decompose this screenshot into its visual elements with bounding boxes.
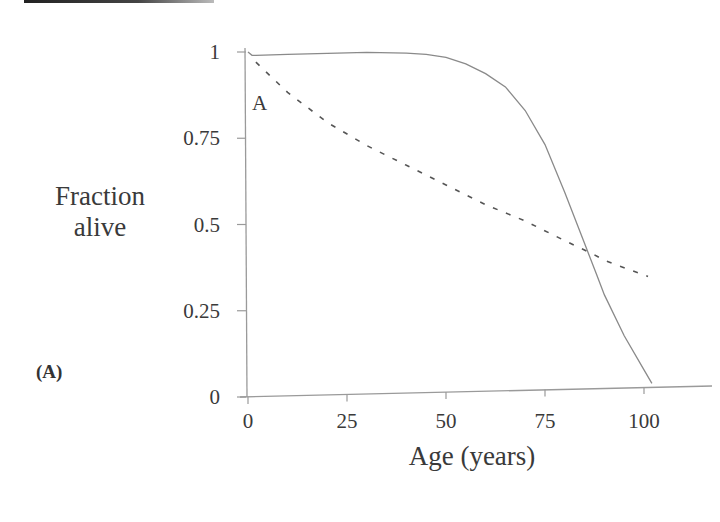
y-axis-ticks: 00.250.50.751 bbox=[183, 40, 246, 409]
series-dashed-line bbox=[256, 62, 648, 276]
y-tick-label: 0 bbox=[210, 385, 221, 409]
x-tick-label: 25 bbox=[337, 409, 358, 433]
x-tick-label: 0 bbox=[243, 409, 254, 433]
y-axis-title-line-1: Fraction bbox=[55, 181, 145, 211]
y-tick-label: 0.75 bbox=[183, 126, 220, 150]
y-tick-label: 0.25 bbox=[183, 299, 220, 323]
y-axis-title-line-2: alive bbox=[74, 212, 126, 242]
x-tick-label: 75 bbox=[535, 409, 556, 433]
y-tick-label: 1 bbox=[210, 40, 221, 64]
y-axis bbox=[245, 48, 247, 397]
curve-label-a: A bbox=[252, 91, 268, 115]
x-axis-title: Age (years) bbox=[409, 441, 536, 471]
x-axis bbox=[240, 386, 712, 397]
x-tick-label: 50 bbox=[436, 409, 457, 433]
panel-label: (A) bbox=[36, 361, 62, 383]
chart-series bbox=[248, 52, 652, 383]
x-tick-label: 100 bbox=[628, 409, 660, 433]
series-solid-line bbox=[248, 52, 652, 383]
survival-chart: 00.250.50.751 0255075100 A Fraction aliv… bbox=[0, 0, 720, 522]
y-tick-label: 0.5 bbox=[194, 213, 220, 237]
x-axis-ticks: 0255075100 bbox=[243, 387, 660, 433]
